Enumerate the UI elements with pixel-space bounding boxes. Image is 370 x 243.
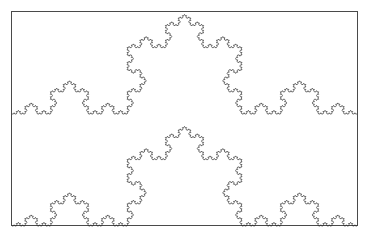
figure-container <box>0 0 370 243</box>
fractal-canvas <box>0 0 370 243</box>
koch-curve-upper <box>12 14 357 114</box>
plot-border <box>12 12 358 226</box>
koch-curve-lower <box>12 126 357 226</box>
